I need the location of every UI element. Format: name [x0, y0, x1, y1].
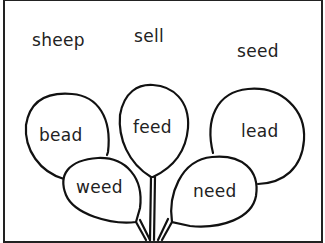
string-feed: [150, 177, 151, 240]
balloon-label-lead: lead: [241, 121, 279, 141]
balloon-label-weed: weed: [76, 177, 123, 197]
word-sell: sell: [134, 26, 164, 46]
balloon-label-bead: bead: [39, 125, 83, 145]
word-seed: seed: [237, 41, 279, 61]
word-sheep: sheep: [32, 30, 85, 50]
balloon-label-need: need: [193, 181, 237, 201]
balloon-label-feed: feed: [133, 117, 172, 137]
